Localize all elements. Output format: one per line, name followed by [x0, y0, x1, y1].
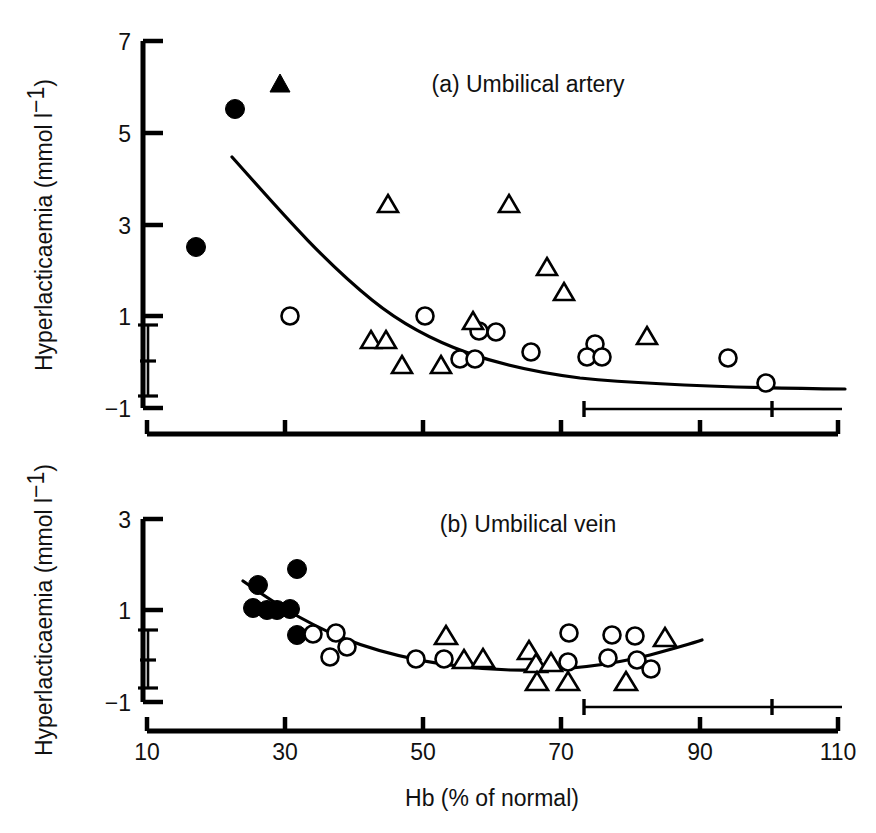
panel-a-open-triangle — [537, 258, 557, 275]
panel-a-open-triangle — [392, 356, 412, 373]
panel-b-open-circle — [627, 628, 644, 645]
panel-b-y-axis-title-main: Hyperlacticaemia (mmol l — [31, 498, 57, 756]
panel-a-open-triangle — [499, 195, 519, 212]
panel-b-xlabel-30: 30 — [272, 739, 298, 765]
x-axis-title: Hb (% of normal) — [405, 785, 579, 811]
panel-a-open-circle — [488, 324, 505, 341]
panel-a-filled-circle — [226, 100, 245, 119]
panel-a-title: (a) Umbilical artery — [432, 71, 625, 97]
svg-text:Hyperlacticaemia (mmol l−1): Hyperlacticaemia (mmol l−1) — [23, 79, 57, 371]
panel-a-y-axis-title-sup: −1 — [23, 87, 49, 113]
panel-b-open-triangle — [654, 628, 676, 646]
panel-a-open-triangle — [376, 331, 396, 348]
panel-a-y-axis-title: Hyperlacticaemia (mmol l−1) — [23, 79, 57, 371]
panel-a-open-circle — [523, 344, 540, 361]
panel-b-open-triangle — [526, 672, 548, 690]
panel-b-y-axis-title-tail: ) — [31, 464, 57, 472]
panel-b-y-axis-title-sup: −1 — [23, 472, 49, 498]
panel-b-open-triangle — [557, 672, 579, 690]
panel-a-ylabel-neg1: −1 — [105, 396, 131, 422]
panel-b-open-circle — [600, 650, 617, 667]
panel-a-open-circle — [594, 349, 611, 366]
panel-b: 3 1 −1 Hyperlacticaemia (mmol l−1) (b) U… — [23, 464, 856, 811]
panel-a-reference-bar — [584, 401, 842, 417]
panel-b-y-axis-title: Hyperlacticaemia (mmol l−1) — [23, 464, 57, 756]
panel-a-y-axis-title-main: Hyperlacticaemia (mmol l — [31, 113, 57, 371]
panel-a-ylabel-5: 5 — [118, 121, 131, 147]
panel-a-open-triangle — [378, 195, 398, 212]
panel-a-open-triangle — [637, 327, 657, 344]
panel-b-open-triangle — [435, 626, 457, 644]
panel-b-xlabel-50: 50 — [410, 739, 436, 765]
panel-b-xlabel-110: 110 — [820, 739, 857, 765]
panel-a-ylabel-7: 7 — [118, 29, 131, 55]
panel-a-open-circle — [282, 308, 299, 325]
panel-a-filled-circle — [187, 238, 206, 257]
figure-root: 7 5 3 1 −1 Hyperlacticaemia (mmol l−1) (… — [0, 0, 876, 833]
panel-a-open-triangle — [463, 312, 483, 329]
panel-a-ylabel-1: 1 — [118, 304, 131, 330]
panel-a-open-circle — [758, 375, 775, 392]
panel-b-open-circle — [643, 661, 660, 678]
panel-a-open-circle — [467, 351, 484, 368]
panel-b-ylabel-neg1: −1 — [105, 690, 131, 716]
panel-b-reference-bar — [584, 699, 842, 715]
panel-b-open-triangle — [615, 672, 637, 690]
chart-canvas: 7 5 3 1 −1 Hyperlacticaemia (mmol l−1) (… — [0, 0, 876, 833]
panel-b-open-circle — [560, 654, 577, 671]
panel-b-ylabel-3: 3 — [118, 507, 131, 533]
panel-a-ylabel-3: 3 — [118, 213, 131, 239]
panel-b-open-circle — [604, 627, 621, 644]
panel-a: 7 5 3 1 −1 Hyperlacticaemia (mmol l−1) (… — [23, 29, 845, 434]
panel-b-xlabel-70: 70 — [548, 739, 574, 765]
panel-a-open-circle — [417, 308, 434, 325]
panel-b-open-circle — [436, 651, 453, 668]
panel-b-open-circle — [322, 649, 339, 666]
panel-b-open-circle — [305, 626, 322, 643]
panel-b-open-circle — [408, 651, 425, 668]
panel-b-xlabel-90: 90 — [687, 739, 713, 765]
panel-b-ylabel-1: 1 — [118, 598, 131, 624]
panel-a-open-triangle — [554, 283, 574, 300]
panel-b-filled-circle — [288, 560, 307, 579]
svg-text:Hyperlacticaemia (mmol l−1): Hyperlacticaemia (mmol l−1) — [23, 464, 57, 756]
panel-a-y-axis-title-tail: ) — [31, 79, 57, 87]
panel-a-open-circle — [720, 350, 737, 367]
panel-a-filled-triangle — [270, 74, 290, 92]
panel-b-open-circle — [339, 639, 356, 656]
panel-b-filled-circle — [281, 600, 300, 619]
panel-b-open-triangle — [472, 649, 494, 667]
panel-b-title: (b) Umbilical vein — [440, 511, 616, 537]
panel-b-filled-circle — [249, 576, 268, 595]
panel-b-xlabel-10: 10 — [134, 739, 160, 765]
panel-a-open-triangle — [431, 356, 451, 373]
panel-b-open-circle — [561, 625, 578, 642]
